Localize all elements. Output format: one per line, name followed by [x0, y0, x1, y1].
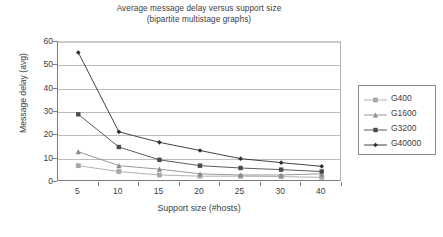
legend-item-G3200[interactable]: G3200 [359, 120, 435, 135]
y-tick-label: 40 [13, 83, 53, 93]
x-tick-label: 30 [265, 186, 295, 196]
x-tick-label: 5 [62, 186, 92, 196]
legend-marker-icon [363, 122, 388, 134]
series-plot [58, 42, 342, 182]
legend-label: G40000 [391, 138, 421, 148]
y-tick-label: 30 [13, 106, 53, 116]
data-point-marker [117, 145, 121, 149]
data-point-marker [319, 164, 324, 169]
y-tick-mark [53, 88, 57, 89]
data-point-marker [76, 112, 80, 116]
legend-marker-icon [363, 92, 388, 104]
x-tick-mark [179, 182, 180, 186]
y-tick-label: 0 [13, 176, 53, 186]
data-point-marker [373, 127, 377, 131]
y-tick-mark [53, 111, 57, 112]
chart-legend: G400G1600G3200G40000 [358, 85, 436, 155]
series-G40000 [76, 50, 324, 168]
legend-item-G1600[interactable]: G1600 [359, 105, 435, 120]
data-point-marker [76, 50, 81, 55]
data-point-marker [198, 148, 203, 153]
chart-title-line2: (bipartite multistage graphs) [57, 15, 341, 26]
legend-label: G3200 [391, 123, 417, 133]
x-tick-label: 15 [143, 186, 173, 196]
data-point-marker [157, 173, 162, 178]
y-tick-label: 20 [13, 129, 53, 139]
x-tick-label: 25 [225, 186, 255, 196]
chart-title: Average message delay versus support siz… [57, 4, 341, 25]
x-tick-mark [219, 182, 220, 186]
x-tick-mark [300, 182, 301, 186]
x-tick-label: 10 [103, 186, 133, 196]
data-point-marker [320, 169, 324, 173]
legend-label: G400 [391, 93, 412, 103]
data-point-marker [117, 130, 122, 135]
x-tick-mark [138, 182, 139, 186]
data-point-marker [76, 163, 81, 168]
legend-item-G400[interactable]: G400 [359, 90, 435, 105]
y-tick-mark [53, 41, 57, 42]
plot-area [57, 41, 341, 181]
data-point-marker [373, 142, 378, 147]
x-tick-mark [341, 182, 342, 186]
x-tick-label: 40 [306, 186, 336, 196]
x-tick-mark [98, 182, 99, 186]
data-point-marker [198, 163, 202, 167]
data-point-marker [116, 169, 121, 174]
data-point-marker [373, 97, 378, 102]
y-tick-mark [53, 134, 57, 135]
chart-title-line1: Average message delay versus support siz… [57, 4, 341, 15]
data-point-marker [157, 158, 161, 162]
y-tick-label: 50 [13, 59, 53, 69]
y-tick-mark [53, 64, 57, 65]
x-axis-title: Support size (#hosts) [57, 203, 341, 213]
y-tick-mark [53, 158, 57, 159]
data-point-marker [279, 167, 283, 171]
legend-item-G40000[interactable]: G40000 [359, 135, 435, 150]
chart-screenshot: Average message delay versus support siz… [0, 0, 443, 237]
legend-marker-icon [363, 107, 388, 119]
x-tick-mark [260, 182, 261, 186]
legend-label: G1600 [391, 108, 417, 118]
data-point-marker [238, 166, 242, 170]
y-tick-label: 60 [13, 36, 53, 46]
data-point-marker [279, 160, 284, 165]
legend-marker-icon [363, 137, 388, 149]
y-tick-mark [53, 181, 57, 182]
data-point-marker [76, 149, 81, 154]
data-point-marker [238, 156, 243, 161]
data-point-marker [157, 140, 162, 145]
y-tick-label: 10 [13, 153, 53, 163]
x-tick-label: 20 [184, 186, 214, 196]
